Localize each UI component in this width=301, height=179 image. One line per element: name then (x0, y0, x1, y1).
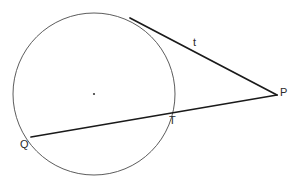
secant-segment (31, 95, 277, 137)
geometry-canvas (0, 0, 301, 179)
point-label-q: Q (20, 139, 29, 150)
circle-center-dot (93, 93, 95, 95)
geometry-figure: P Q T t (0, 0, 301, 179)
tangent-segment (130, 18, 277, 95)
point-label-t-upper: T (169, 115, 176, 126)
point-label-p: P (280, 87, 287, 98)
tangent-length-label: t (193, 37, 196, 48)
